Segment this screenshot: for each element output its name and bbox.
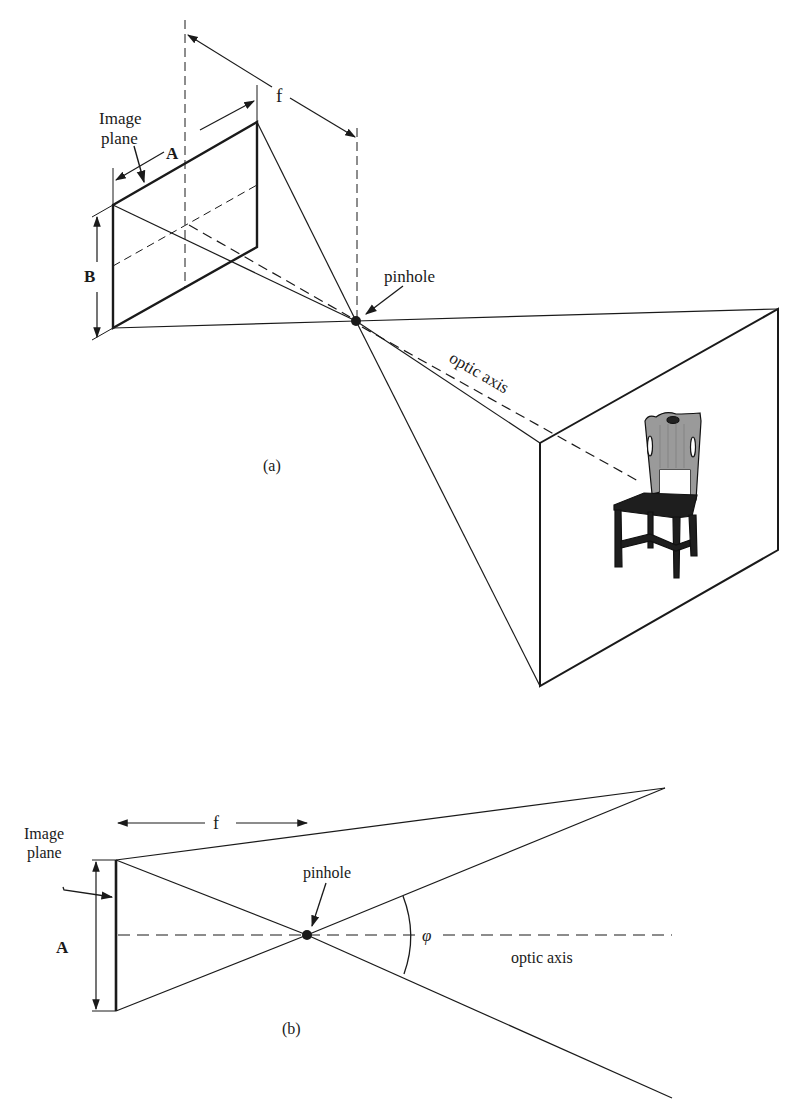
ray-upper-b-front [307,788,665,935]
a-arrow-right [200,101,254,130]
ray-top-left [113,205,356,321]
label-image-plane-b-2: plane [27,844,62,862]
label-pinhole-a: pinhole [384,267,435,286]
label-f-a: f [276,85,283,106]
ray-upper-b [116,788,665,860]
pinhole-pointer-a [366,286,403,314]
b-tick-bottom [92,328,113,340]
f-arrow-right [290,98,355,137]
caption-b: (b) [282,1020,301,1038]
optic-axis-front [362,327,640,482]
f-arrow-left [188,35,272,87]
label-optic-axis-a: optic axis [446,348,512,397]
ray-upper-b-back [116,860,307,935]
ray-top-right [257,122,356,321]
label-optic-axis-b: optic axis [511,949,573,967]
label-f-b: f [213,813,219,833]
chair-icon [614,413,701,578]
label-image-plane-a-2: plane [101,129,138,148]
label-phi: φ [422,926,431,945]
label-a-a: A [166,144,179,163]
caption-a: (a) [263,457,281,475]
ray-to-bottom-left [356,321,540,686]
image-plane-centerline [113,185,257,266]
label-pinhole-b: pinhole [303,864,351,882]
pinhole-dot-a [351,316,361,326]
label-image-plane-b-1: Image [24,825,64,843]
pinhole-camera-diagram: f Image plane A B pinhole optic axis (a) [0,0,809,1106]
image-plane-pointer-b [63,887,112,897]
ray-lower-b-front [307,935,672,1098]
label-image-plane-a-1: Image [99,109,141,128]
pinhole-dot-b [302,930,312,940]
figure-a: f Image plane A B pinhole optic axis (a) [84,20,778,686]
label-a-b: A [56,938,69,957]
figure-b: f Image plane A pinhole φ optic axis (b) [24,788,672,1098]
ray-bottom-left [113,321,356,328]
pinhole-pointer-b [312,883,326,926]
ray-to-top-right [356,309,778,321]
ray-lower-b [116,935,307,1011]
label-b-a: B [84,267,95,286]
b-tick-top [92,205,113,217]
